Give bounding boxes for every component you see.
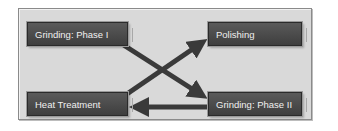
node-edge-highlight	[306, 28, 307, 42]
node-label: Grinding: Phase I	[35, 29, 108, 40]
node-label: Grinding: Phase II	[216, 99, 292, 110]
node-edge-highlight	[132, 28, 133, 42]
node-polishing: Polishing	[208, 22, 302, 46]
node-grinding-phase-2: Grinding: Phase II	[208, 92, 302, 116]
node-label: Heat Treatment	[35, 99, 100, 110]
node-label: Polishing	[216, 29, 255, 40]
node-edge-highlight	[132, 98, 133, 112]
node-edge-highlight	[306, 98, 307, 112]
node-heat-treatment: Heat Treatment	[27, 92, 128, 116]
node-grinding-phase-1: Grinding: Phase I	[27, 22, 128, 46]
